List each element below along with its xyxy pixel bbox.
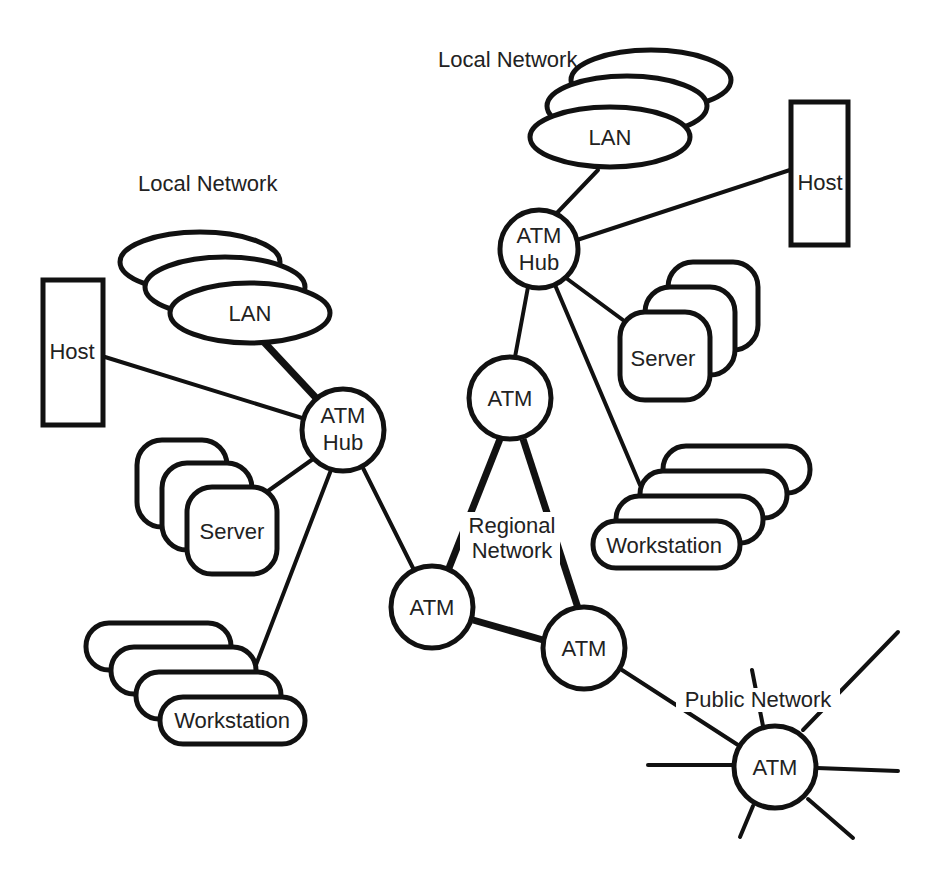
link-left-hub-regional: [363, 468, 414, 570]
link-left-server-hub: [268, 459, 313, 491]
left-workstation-stack[interactable]: Workstation: [86, 623, 305, 744]
regional-right-atm-label: ATM: [562, 636, 607, 661]
hub-circle: [500, 210, 578, 288]
left-hub-label-line1: ATM: [321, 403, 366, 428]
link-right-hub-regional: [515, 287, 528, 357]
right-atm-hub[interactable]: ATM Hub: [500, 210, 578, 288]
regional-right-atm[interactable]: ATM: [543, 607, 625, 689]
right-server-stack[interactable]: Server: [620, 262, 758, 400]
left-host-label: Host: [49, 339, 94, 364]
link-right-lan-hub: [556, 170, 598, 214]
left-host[interactable]: Host: [43, 280, 103, 425]
regional-left-atm-label: ATM: [410, 595, 455, 620]
public-atm[interactable]: ATM: [734, 726, 816, 808]
regional-left-atm[interactable]: ATM: [391, 566, 473, 648]
link-public-spoke-sw: [740, 806, 753, 837]
left-server-stack[interactable]: Server: [137, 440, 277, 574]
right-workstation-label: Workstation: [606, 533, 722, 558]
left-server-label: Server: [200, 519, 265, 544]
right-hub-label-line1: ATM: [517, 223, 562, 248]
right-host[interactable]: Host: [791, 102, 848, 245]
link-regional-left-right: [473, 620, 543, 640]
right-local-network-label: Local Network: [438, 47, 578, 72]
atm-network-diagram: Local Network LAN Host Server Workstatio…: [0, 0, 936, 880]
link-right-host-hub: [577, 170, 790, 240]
left-lan-label: LAN: [229, 301, 272, 326]
left-lan-stack[interactable]: LAN: [120, 232, 330, 343]
link-left-lan-hub: [262, 340, 318, 400]
left-atm-hub[interactable]: ATM Hub: [302, 389, 384, 471]
left-workstation-label: Workstation: [174, 708, 290, 733]
link-left-host-hub: [105, 357, 302, 418]
right-hub-label-line2: Hub: [519, 250, 559, 275]
left-local-network-label: Local Network: [138, 171, 278, 196]
public-network-label-text: Public Network: [685, 687, 833, 712]
regional-label-line1: Regional: [469, 513, 556, 538]
public-network-label: Public Network: [676, 687, 840, 712]
regional-top-atm[interactable]: ATM: [469, 357, 551, 439]
right-host-label: Host: [797, 170, 842, 195]
right-server-label: Server: [631, 346, 696, 371]
regional-network-label: Regional Network: [460, 512, 560, 570]
regional-label-line2: Network: [472, 538, 554, 563]
link-right-server-hub: [566, 278, 627, 323]
link-public-spoke-ne: [803, 632, 898, 730]
link-public-spoke-se: [808, 799, 853, 838]
left-hub-label-line2: Hub: [323, 430, 363, 455]
link-public-spoke-e: [817, 768, 898, 771]
regional-top-atm-label: ATM: [488, 386, 533, 411]
right-workstation-stack[interactable]: Workstation: [593, 446, 810, 568]
right-lan-label: LAN: [589, 125, 632, 150]
public-atm-label: ATM: [753, 755, 798, 780]
